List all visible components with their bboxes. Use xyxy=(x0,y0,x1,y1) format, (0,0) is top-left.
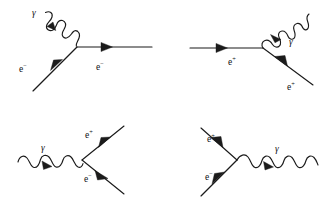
photon-label: γ xyxy=(275,144,279,154)
photon-label: γ xyxy=(41,143,45,153)
photon-label: γ xyxy=(289,37,293,47)
photon-label: γ xyxy=(32,8,36,18)
feynman-diagram-figure: γ e− e− γ e+ e+ γ e+ xyxy=(0,0,334,207)
